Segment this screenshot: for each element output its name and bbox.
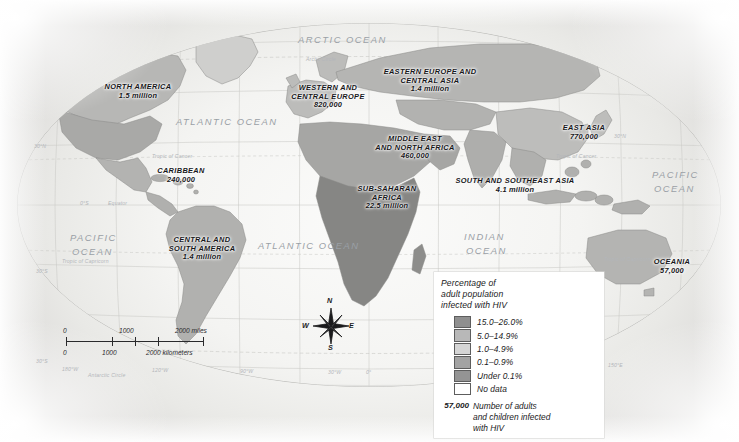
legend-note-line2: and children infected xyxy=(473,412,550,423)
land-tasmania xyxy=(644,288,654,296)
land-africa-sub xyxy=(316,176,420,306)
map-legend: Percentage of adult population infected … xyxy=(434,272,604,438)
land-arabia xyxy=(424,134,460,170)
scale-miles-2000: 2000 miles xyxy=(175,327,207,334)
legend-row: Under 0.1% xyxy=(454,369,604,382)
land-japan xyxy=(590,110,612,140)
legend-note-line3: with HIV xyxy=(473,423,550,434)
land-canada xyxy=(36,52,186,126)
land-alaska xyxy=(22,70,56,96)
legend-swatch xyxy=(454,370,471,383)
legend-row: 0.1–0.9% xyxy=(454,356,604,369)
scale-miles-0: 0 xyxy=(63,327,67,334)
land-madagascar xyxy=(412,244,426,274)
legend-label: 15.0–26.0% xyxy=(477,317,523,327)
legend-swatch xyxy=(454,329,471,342)
legend-row: 5.0–14.9% xyxy=(454,329,604,342)
legend-title: Percentage of adult population infected … xyxy=(434,272,604,312)
legend-title-line3: infected with HIV xyxy=(441,300,604,311)
scale-km-0: 0 xyxy=(63,349,67,356)
legend-label: 5.0–14.9% xyxy=(477,331,518,341)
legend-title-line2: adult population xyxy=(441,289,604,300)
land-centralam xyxy=(146,192,178,216)
land-russia xyxy=(336,44,600,102)
compass-north-label: N xyxy=(327,296,332,305)
compass-east-label: E xyxy=(349,321,354,330)
legend-class-list: 15.0–26.0%5.0–14.9%1.0–4.9%0.1–0.9%Under… xyxy=(454,316,604,396)
land-new-zealand-south xyxy=(690,284,702,300)
compass-south-label: S xyxy=(328,343,333,352)
compass-west-label: W xyxy=(302,321,309,330)
legend-swatch xyxy=(454,316,471,329)
land-new-guinea xyxy=(612,200,650,214)
legend-row: 1.0–4.9% xyxy=(454,342,604,355)
legend-label: Under 0.1% xyxy=(477,371,522,381)
legend-label: 0.1–0.9% xyxy=(477,357,513,367)
legend-swatch xyxy=(454,356,471,369)
world-map: ARCTIC OCEAN ATLANTIC OCEAN ATLANTIC OCE… xyxy=(0,0,739,442)
legend-row: 15.0–26.0% xyxy=(454,316,604,329)
map-vector-layer xyxy=(0,0,739,442)
scale-km-2000: 2000 kilometers xyxy=(146,349,193,356)
legend-swatch xyxy=(454,343,471,356)
legend-row: No data xyxy=(454,382,604,395)
legend-label: No data xyxy=(477,384,507,394)
land-mexico xyxy=(96,158,152,192)
legend-note-line1: Number of adults xyxy=(473,401,550,412)
legend-title-line1: Percentage of xyxy=(441,278,604,289)
scale-bar: 0 1000 2000 miles 0 1000 2000 kilometers xyxy=(62,326,234,362)
land-east-asia xyxy=(496,108,588,160)
legend-note-number: 57,000 xyxy=(436,401,469,434)
scale-km-1000: 1000 xyxy=(102,349,117,356)
land-central-asia xyxy=(396,100,496,130)
legend-swatch xyxy=(454,383,471,396)
legend-label: 1.0–4.9% xyxy=(477,344,513,354)
land-greenland xyxy=(196,33,258,84)
legend-note: 57,000 Number of adults and children inf… xyxy=(436,401,604,434)
compass-rose: N E S W xyxy=(303,298,359,354)
land-korea xyxy=(580,124,588,138)
legend-note-text: Number of adults and children infected w… xyxy=(473,401,550,434)
land-caribbean xyxy=(151,174,198,194)
scale-bar-graphic xyxy=(66,337,204,346)
scale-miles-1000: 1000 xyxy=(119,327,134,334)
land-africa-north xyxy=(298,122,436,190)
land-new-zealand xyxy=(698,268,710,286)
